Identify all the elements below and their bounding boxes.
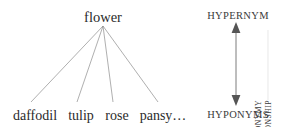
- arrow-head-down: [232, 95, 241, 106]
- double-headed-vertical-arrow: [232, 22, 241, 106]
- node-rose[interactable]: rose: [105, 109, 128, 123]
- tree-edge-daffodil: [31, 26, 103, 102]
- node-tulip[interactable]: tulip: [68, 109, 94, 123]
- arrow-head-up: [232, 22, 241, 33]
- node-daffodil[interactable]: daffodil: [13, 109, 57, 123]
- tree-edge-group: [31, 26, 158, 102]
- tree-edge-tulip: [77, 26, 103, 102]
- hyponymy-diagram: flower daffodil tulip rose pansy… HYPERN…: [0, 0, 283, 127]
- label-hypernym: HYPERNYM: [207, 11, 269, 22]
- label-of-hyponymy: OF HYPONYMY: [255, 100, 263, 127]
- node-flower[interactable]: flower: [84, 10, 122, 25]
- label-relationship: RELATIONSHIP: [265, 100, 273, 127]
- node-pansy[interactable]: pansy…: [140, 109, 187, 123]
